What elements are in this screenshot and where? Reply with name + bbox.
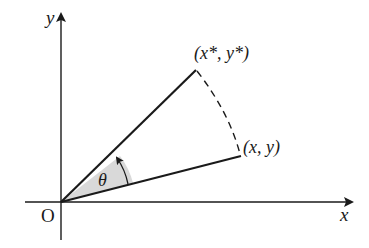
original-point-label: (x, y): [243, 137, 280, 158]
rotated-point-label: (x*, y*): [194, 43, 249, 64]
angle-wedge: [61, 156, 133, 202]
x-axis-label: x: [339, 204, 349, 225]
original-ray: [61, 156, 241, 202]
origin-label: O: [41, 205, 55, 226]
rotation-arc-dashed: [197, 71, 240, 154]
rotation-diagram: y x O (x*, y*) (x, y) θ: [0, 0, 369, 248]
y-axis-label: y: [44, 7, 55, 28]
angle-label: θ: [98, 170, 107, 190]
